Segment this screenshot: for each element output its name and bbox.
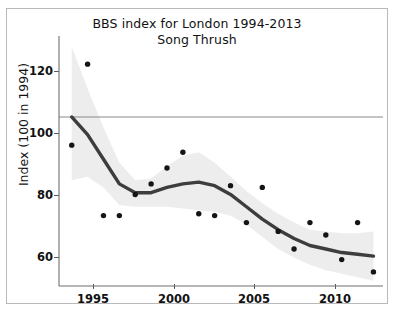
footer-caption bbox=[4, 308, 244, 315]
data-point bbox=[355, 220, 360, 225]
data-point bbox=[371, 269, 376, 274]
data-point bbox=[133, 192, 138, 197]
data-point bbox=[164, 165, 169, 170]
data-point bbox=[180, 149, 185, 154]
data-point bbox=[275, 229, 280, 234]
confidence-band-area bbox=[72, 47, 374, 281]
plot-area bbox=[7, 9, 389, 305]
data-point bbox=[244, 220, 249, 225]
data-point bbox=[101, 213, 106, 218]
data-point bbox=[323, 232, 328, 237]
data-point bbox=[69, 142, 74, 147]
data-point bbox=[291, 246, 296, 251]
data-point bbox=[339, 257, 344, 262]
chart-figure: BBS index for London 1994-2013 Song Thru… bbox=[6, 8, 388, 304]
data-point bbox=[228, 183, 233, 188]
data-point bbox=[260, 185, 265, 190]
data-point bbox=[212, 213, 217, 218]
data-point bbox=[307, 220, 312, 225]
data-point bbox=[148, 181, 153, 186]
data-point bbox=[85, 61, 90, 66]
data-point bbox=[117, 213, 122, 218]
confidence-band bbox=[72, 47, 374, 281]
data-point bbox=[196, 211, 201, 216]
